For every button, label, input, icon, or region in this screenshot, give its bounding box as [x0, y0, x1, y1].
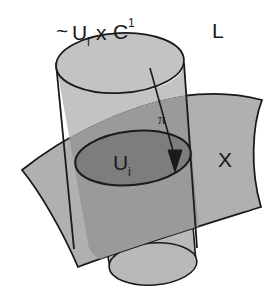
label-open-set-U: U [113, 151, 128, 174]
label-projection-pi: π [158, 111, 166, 127]
label-chart-fiber: C [113, 20, 128, 43]
label-chart-times: x [96, 21, 107, 44]
label-total-space-L: L [212, 19, 224, 42]
label-chart-base: U [72, 21, 87, 44]
label-open-set-subscript: i [128, 164, 131, 179]
label-base-space-X: X [218, 148, 232, 171]
figure-root: ~ U i x C 1 L π U i X [0, 0, 279, 290]
label-tilde: ~ [56, 19, 68, 42]
bundle-diagram-svg: ~ U i x C 1 L π U i X [0, 0, 279, 290]
label-chart-fiber-superscript: 1 [128, 16, 135, 30]
label-chart-base-subscript: i [87, 34, 90, 49]
